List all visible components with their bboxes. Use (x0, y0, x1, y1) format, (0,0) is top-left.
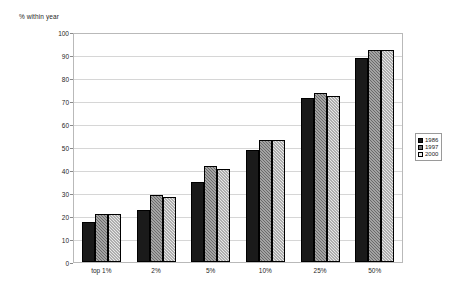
y-axis-title: % within year (19, 13, 59, 20)
legend-swatch-icon (418, 152, 423, 157)
bar (204, 166, 217, 262)
bar (217, 169, 230, 262)
x-axis-category-label: 5% (183, 267, 238, 274)
bar-group (129, 34, 184, 262)
y-axis-tick-label: 10 (29, 237, 69, 244)
bar (259, 140, 272, 262)
bar (381, 50, 394, 262)
bar (82, 222, 95, 262)
y-axis-tick-label: 20 (29, 214, 69, 221)
x-axis-category-label: 10% (238, 267, 293, 274)
y-axis-tick-label: 50 (29, 145, 69, 152)
y-axis-tick-label: 100 (29, 30, 69, 37)
bar-chart: % within year 0102030405060708090100 top… (0, 0, 468, 296)
bar (327, 96, 340, 262)
y-axis-tick-label: 70 (29, 99, 69, 106)
y-axis-tick-label: 40 (29, 168, 69, 175)
bar (301, 98, 314, 262)
y-axis-tick-label: 0 (29, 260, 69, 267)
bar-group (347, 34, 402, 262)
bar (137, 210, 150, 262)
bar (314, 93, 327, 262)
bar (246, 150, 259, 262)
bar (355, 58, 368, 262)
x-axis-category-label: 50% (347, 267, 402, 274)
y-axis-ticks: 0102030405060708090100 (27, 33, 69, 263)
x-axis-category-label: 25% (293, 267, 348, 274)
x-axis-category-label: top 1% (74, 267, 129, 274)
bar-groups (74, 34, 402, 262)
bar (368, 50, 381, 262)
bar (108, 214, 121, 262)
legend-item[interactable]: 1997 (418, 144, 438, 150)
legend-item[interactable]: 2000 (418, 151, 438, 157)
bar-group (238, 34, 293, 262)
bar (163, 197, 176, 262)
y-axis-tick-label: 90 (29, 53, 69, 60)
y-axis-tick-label: 60 (29, 122, 69, 129)
legend-item-label: 2000 (425, 151, 438, 157)
bar (150, 195, 163, 262)
bar (95, 214, 108, 262)
x-axis-category-labels: top 1%2%5%10%25%50% (74, 267, 402, 274)
legend-swatch-icon (418, 138, 423, 143)
bar-group (293, 34, 348, 262)
x-axis-category-label: 2% (129, 267, 184, 274)
y-axis-tick-label: 80 (29, 76, 69, 83)
y-axis-tick-label: 30 (29, 191, 69, 198)
legend-swatch-icon (418, 145, 423, 150)
legend-item-label: 1997 (425, 144, 438, 150)
bar-group (183, 34, 238, 262)
bar-group (74, 34, 129, 262)
legend-item[interactable]: 1986 (418, 137, 438, 143)
legend-item-label: 1986 (425, 137, 438, 143)
chart-legend: 198619972000 (415, 133, 442, 161)
bar (191, 182, 204, 262)
y-axis-tick-mark (70, 263, 73, 264)
bar (272, 140, 285, 262)
